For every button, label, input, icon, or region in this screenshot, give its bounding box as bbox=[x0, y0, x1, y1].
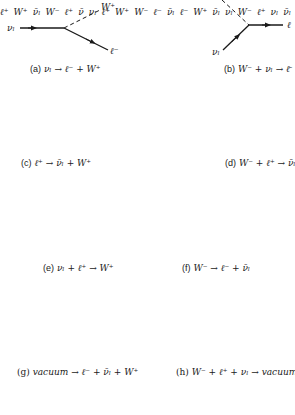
diagram-b: ℓ νₗ bbox=[212, 0, 291, 57]
caption-tag: (c) bbox=[21, 158, 32, 168]
caption-equation: vacuum → ℓ⁻ + ν̄ₗ + W⁺ bbox=[33, 367, 139, 377]
caption-equation: W⁻ + ℓ⁺ + νₗ → vacuum bbox=[192, 367, 295, 377]
caption-equation: νₗ → ℓ⁻ + W⁺ bbox=[44, 64, 101, 74]
caption-equation: W⁻ → ℓ⁻ + ν̄ₗ bbox=[193, 263, 250, 273]
diagram-a: νₗ W⁺ ℓ⁻ bbox=[7, 2, 119, 56]
label-nu-l: νₗ bbox=[212, 47, 220, 57]
label-w-plus: W⁺ bbox=[101, 2, 115, 12]
label-nu-l: νₗ bbox=[7, 23, 15, 33]
caption-b: (b) W⁻ + νₗ → ℓ̄ bbox=[224, 64, 290, 74]
caption-tag: (d) bbox=[225, 158, 236, 168]
caption-tag: (f) bbox=[182, 263, 191, 273]
caption-tag: (g) bbox=[17, 367, 30, 377]
caption-equation: W⁻ + ℓ⁺ → ν̄ₗ bbox=[239, 158, 295, 168]
label-l-minus: ℓ⁻ bbox=[110, 46, 119, 56]
caption-c: (c) ℓ⁺ → ν̄ₗ + W⁺ bbox=[21, 158, 91, 168]
caption-tag: (h) bbox=[176, 367, 189, 377]
caption-f: (f) W⁻ → ℓ⁻ + ν̄ₗ bbox=[182, 263, 250, 273]
feynman-diagrams-figure: νₗ W⁺ ℓ⁻ ℓ νₗ bbox=[0, 0, 295, 415]
caption-h: (h) W⁻ + ℓ⁺ + νₗ → vacuum bbox=[176, 367, 295, 377]
caption-e: (e) νₗ + ℓ⁺ → W⁺ bbox=[43, 263, 114, 273]
caption-g: (g) vacuum → ℓ⁻ + ν̄ₗ + W⁺ bbox=[17, 367, 138, 377]
label-l: ℓ bbox=[287, 20, 291, 30]
caption-equation: ℓ⁺ → ν̄ₗ + W⁺ bbox=[34, 158, 91, 168]
caption-equation: W⁻ + νₗ → ℓ̄ bbox=[238, 64, 290, 74]
caption-equation: νₗ + ℓ⁺ → W⁺ bbox=[57, 263, 114, 273]
caption-tag: (e) bbox=[43, 263, 54, 273]
caption-tag: (a) bbox=[30, 64, 41, 74]
caption-tag: (b) bbox=[224, 64, 235, 74]
caption-d: (d) W⁻ + ℓ⁺ → ν̄ₗ bbox=[225, 158, 295, 168]
caption-a: (a) νₗ → ℓ⁻ + W⁺ bbox=[30, 64, 101, 74]
